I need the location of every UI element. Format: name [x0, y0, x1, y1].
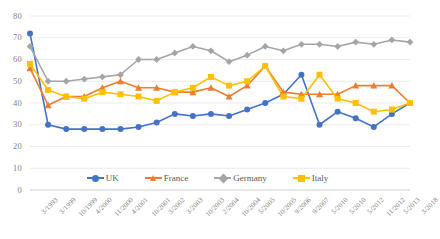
data-point [407, 39, 414, 46]
data-point [45, 122, 51, 128]
data-point [171, 50, 178, 57]
legend-line-swatch [145, 177, 162, 179]
data-point [262, 63, 268, 69]
data-point [335, 96, 341, 102]
data-point [335, 109, 341, 115]
legend-marker-diamond [218, 173, 228, 183]
legend-label: Germany [233, 173, 267, 183]
legend-marker-circle [92, 175, 99, 182]
data-point [226, 113, 232, 119]
legend-line-swatch [293, 177, 310, 179]
data-point [353, 115, 359, 121]
data-point [298, 96, 304, 102]
data-point [117, 91, 123, 97]
data-point [136, 124, 142, 130]
legend-item-uk[interactable]: UK [87, 173, 119, 183]
data-point [353, 100, 359, 106]
legend-line-swatch [214, 177, 231, 179]
data-point [45, 87, 51, 93]
data-point [172, 89, 178, 95]
data-point [407, 100, 413, 106]
data-point [81, 96, 87, 102]
data-point [371, 109, 377, 115]
data-point [99, 89, 105, 95]
data-point [207, 84, 214, 91]
data-point [136, 93, 142, 99]
data-point [27, 61, 33, 67]
legend-label: France [164, 173, 189, 183]
data-point [154, 120, 160, 126]
data-point [154, 98, 160, 104]
data-point [352, 39, 359, 46]
data-point [316, 41, 323, 48]
data-point [172, 111, 178, 117]
legend-line-swatch [87, 177, 104, 179]
data-point [190, 113, 196, 119]
data-point [244, 107, 250, 113]
legend-label: Italy [312, 173, 329, 183]
data-point [226, 83, 232, 89]
legend-marker-triangle [150, 175, 156, 181]
chart-legend: UKFranceGermanyItaly [0, 170, 415, 186]
data-point [244, 52, 251, 59]
data-point [190, 85, 196, 91]
data-point [370, 41, 377, 48]
legend-item-germany[interactable]: Germany [214, 173, 267, 183]
data-point [117, 126, 123, 132]
legend-label: UK [106, 173, 119, 183]
data-point [262, 100, 268, 106]
data-point [298, 41, 305, 48]
data-point [63, 93, 69, 99]
data-point [63, 78, 70, 85]
data-point [298, 72, 304, 78]
data-point [63, 126, 69, 132]
data-point [189, 43, 196, 50]
legend-item-italy[interactable]: Italy [293, 173, 329, 183]
data-point [27, 30, 33, 36]
data-point [81, 126, 87, 132]
legend-item-france[interactable]: France [145, 173, 189, 183]
data-point [208, 111, 214, 117]
data-point [317, 122, 323, 128]
data-point [334, 43, 341, 50]
data-point [208, 47, 215, 54]
data-point [371, 124, 377, 130]
data-point [317, 72, 323, 78]
data-point [280, 93, 286, 99]
data-point [153, 56, 160, 63]
x-axis-tick-label: 3/2018 [420, 196, 440, 216]
data-point [208, 74, 214, 80]
data-point [262, 43, 269, 50]
data-point [389, 107, 395, 113]
data-point [99, 126, 105, 132]
data-point [45, 78, 52, 85]
data-point [99, 74, 106, 81]
series-line-germany [30, 40, 410, 81]
legend-marker-square [298, 175, 305, 182]
data-point [244, 78, 250, 84]
data-point [280, 47, 287, 54]
